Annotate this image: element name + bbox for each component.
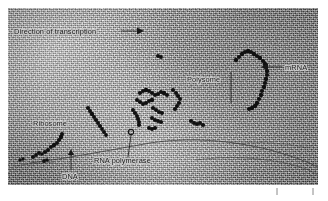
direction-arrow-head: [137, 27, 144, 34]
dna-strand-lower: [196, 158, 318, 175]
annotation-overlay: Direction of transcription Direction of …: [0, 0, 328, 201]
polysome-central-cluster: [131, 54, 205, 131]
dna-filament-group: [14, 140, 318, 175]
polysome-mid-left: [86, 106, 108, 137]
figure-root: Direction of transcription Direction of …: [0, 0, 328, 201]
polysome-left: [18, 132, 64, 163]
label-dna: DNA: [62, 172, 78, 181]
leader-lines: [68, 27, 282, 170]
label-polysome: Polysome: [187, 75, 220, 84]
label-rna-polymerase: RNA polymerase: [94, 156, 151, 165]
label-direction: Direction of transcription: [14, 27, 96, 36]
dna-strand-upper-right: [232, 143, 310, 148]
label-ribosome: Ribosome: [33, 119, 67, 128]
rna-polymerase-marker: [128, 129, 133, 134]
label-group: Direction of transcription Direction of …: [14, 27, 307, 181]
scale-bar: [277, 188, 313, 195]
polysome-right-arc: [234, 49, 269, 111]
dna-arrow-head: [68, 149, 74, 155]
label-mrna: mRNA: [285, 63, 307, 72]
rna-polymerase-leader: [128, 135, 131, 157]
